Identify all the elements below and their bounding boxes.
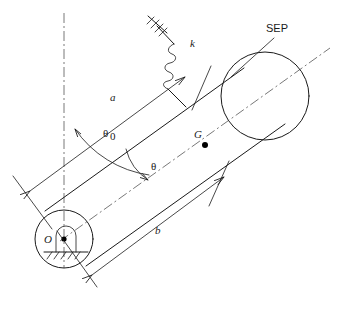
dimension-b: b — [57, 161, 229, 287]
sep-annotation: SEP — [231, 22, 288, 77]
theta0-subscript: 0 — [110, 130, 116, 142]
spring-coils — [164, 44, 176, 89]
rod-body — [45, 68, 285, 266]
theta-arc — [126, 149, 148, 180]
ground-hatching — [47, 252, 80, 259]
spring-lower-connector — [168, 89, 186, 107]
disc-circle — [221, 52, 309, 140]
rod-axis-centerline — [60, 48, 330, 241]
cg-label: G — [194, 128, 202, 140]
theta0-label: θ — [103, 127, 108, 139]
sep-label: SEP — [266, 22, 288, 34]
dim-a-label: a — [110, 91, 116, 103]
dim-a-extension-right — [192, 66, 211, 110]
theta-label: θ — [151, 160, 156, 172]
dim-b-label: b — [155, 224, 161, 236]
rod-lower-edge — [86, 124, 285, 266]
dim-a-extension-left — [13, 176, 52, 229]
sep-leader-line — [231, 38, 274, 77]
angle-theta0: θ 0 — [75, 127, 149, 175]
dimension-a: a — [13, 66, 211, 229]
rod-upper-edge — [45, 68, 244, 211]
spring-label: k — [190, 37, 196, 49]
center-of-gravity: G — [194, 128, 208, 148]
spring-assembly: k — [147, 16, 196, 107]
cg-point-dot — [202, 142, 208, 148]
dim-b-extension-right — [209, 161, 229, 206]
pendulum-schematic: O k SEP a — [0, 0, 347, 309]
pivot-label: O — [44, 233, 52, 245]
dim-b-extension-left — [57, 231, 97, 287]
